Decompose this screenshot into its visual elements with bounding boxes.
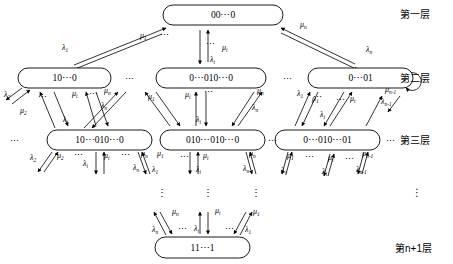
edge-label-e4: λi xyxy=(209,55,215,65)
node-n-10-010-0[interactable]: 10⋯010⋯0 xyxy=(47,130,152,150)
edge-label-e26: λi xyxy=(82,159,88,169)
ellipsis-h3: ⋯ xyxy=(10,136,20,146)
edge-label-e47: λ1 xyxy=(244,225,251,235)
node-n-0-010-01[interactable]: 0⋯010⋯01 xyxy=(275,130,380,150)
edge-label-e2: μ1 xyxy=(139,31,147,41)
edge-label-e35: λn xyxy=(242,164,249,174)
edge-label-e22: λn-1 xyxy=(380,97,392,107)
ellipsis-h18: ⋯ xyxy=(178,224,188,234)
vertical-ellipsis-v3: ⋮ xyxy=(251,187,261,198)
edge-label-e46: μ1 xyxy=(252,207,260,217)
edge-label-e36: μ1 xyxy=(286,151,294,161)
edge-label-e29: λn xyxy=(132,163,139,173)
ellipsis-h14: ⋯ xyxy=(121,150,131,160)
edge-label-e20: μi xyxy=(349,94,356,104)
edge-label-e10: μn xyxy=(103,86,111,96)
edge-label-e33: λi xyxy=(195,165,201,175)
edge-label-e27: μi xyxy=(103,151,110,161)
edge-label-e11: λn xyxy=(100,101,107,111)
layer-label-group: 第一层第二层第三层⋮第n+1层 xyxy=(395,8,432,254)
node-label: 010⋯010⋯0 xyxy=(186,135,240,145)
edge-label-e45: λi xyxy=(193,224,199,234)
layer-label-layer-2: 第二层 xyxy=(400,72,430,84)
vertical-ellipsis-v2: ⋮ xyxy=(203,187,213,198)
edge-label-e31: λ1 xyxy=(151,165,158,175)
edge-label-e16: λn xyxy=(251,103,258,113)
node-n-0-010-0[interactable]: 0⋯010⋯0 xyxy=(156,68,266,88)
node-n-010-010-0[interactable]: 010⋯010⋯0 xyxy=(160,130,265,150)
node-n-0-01[interactable]: 0⋯01 xyxy=(308,68,413,88)
edge-label-e8: μ2 xyxy=(19,106,27,116)
edge-label-e14: μi xyxy=(184,90,191,100)
edge-label-e30: μ1 xyxy=(156,149,164,159)
edge-label-e44: μi xyxy=(214,206,221,216)
node-label: 10⋯0 xyxy=(52,73,77,83)
ellipsis-h19: ⋯ xyxy=(225,224,235,234)
edge-label-e41: λn-1 xyxy=(355,165,367,175)
node-label: 10⋯010⋯0 xyxy=(75,135,124,145)
edge-label-e28: μn xyxy=(140,149,148,159)
node-label: 0⋯010⋯0 xyxy=(189,73,233,83)
edge-label-e15: μn xyxy=(256,86,264,96)
ellipsis-h11: ⋯ xyxy=(313,92,323,102)
edge-label-e21: λi xyxy=(319,110,325,120)
ellipsis-h7: ⋯ xyxy=(160,30,170,40)
ellipsis-h13: ⋯ xyxy=(74,150,84,160)
node-n-10-0[interactable]: 10⋯0 xyxy=(18,68,111,88)
node-label: 11⋯1 xyxy=(191,243,215,253)
layer-label-layer-1: 第一层 xyxy=(400,8,430,20)
node-label: 0⋯010⋯01 xyxy=(303,135,352,145)
state-transition-diagram: 00⋯010⋯00⋯010⋯00⋯0110⋯010⋯0010⋯010⋯00⋯01… xyxy=(0,0,453,264)
edge-label-e13: μ1 xyxy=(147,92,155,102)
ellipsis-h16: ⋯ xyxy=(305,152,315,162)
edge-label-e9: μi xyxy=(71,89,78,99)
layer-label-layer-n1: 第n+1层 xyxy=(395,242,432,254)
edge-label-e5: μn xyxy=(299,20,307,30)
ellipsis-h4: ⋯ xyxy=(268,136,278,146)
edge-label-e34: μn xyxy=(248,149,256,159)
ellipsis-h17: ⋯ xyxy=(345,154,355,164)
edge-label-e1: λ1 xyxy=(61,43,68,53)
vertical-ellipsis-group: ⋮⋮⋮ xyxy=(157,187,261,198)
edge-label-e3: μi xyxy=(221,43,228,53)
edge-label-e18: λ1 xyxy=(296,89,303,99)
ellipsis-h2: ⋯ xyxy=(283,74,293,84)
layer-label-layer-dots: ⋮ xyxy=(412,187,422,198)
ellipsis-h6: ⋯ xyxy=(38,92,48,102)
edge-label-e37: λ1 xyxy=(280,166,287,176)
edge-label-e24: λ2 xyxy=(29,153,36,163)
edge-label-e12: λi xyxy=(62,115,68,125)
ellipsis-h8: ⋯ xyxy=(206,39,216,49)
ellipsis-h1: ⋯ xyxy=(125,74,135,84)
ellipsis-h9: ⋯ xyxy=(89,89,99,99)
ellipsis-h10: ⋯ xyxy=(204,87,214,97)
edge-label-e17: λi xyxy=(195,115,201,125)
ellipsis-h15: ⋯ xyxy=(180,152,190,162)
edge-label-e39: λi xyxy=(321,167,327,177)
edge-label-e38: μi xyxy=(327,153,334,163)
node-label: 00⋯0 xyxy=(211,10,236,20)
ellipsis-h12: ⋯ xyxy=(336,95,346,105)
edge-label-e6: λn xyxy=(365,45,372,55)
vertical-ellipsis-v1: ⋮ xyxy=(157,187,167,198)
edge-label-e32: μi xyxy=(202,151,209,161)
edge-label-e25: μ2 xyxy=(56,151,64,161)
node-n-11-1[interactable]: 11⋯1 xyxy=(155,237,250,258)
edge-label-e7: λ2 xyxy=(3,90,10,100)
edge-label-e43: λn xyxy=(151,225,158,235)
edge-label-e42: μn xyxy=(171,207,179,217)
node-label: 0⋯01 xyxy=(348,73,373,83)
node-n-00-0[interactable]: 00⋯0 xyxy=(163,5,283,25)
edge-label-e40: μn-1 xyxy=(361,149,374,159)
layer-label-layer-3: 第三层 xyxy=(400,134,430,146)
ellipsis-h5: ⋯ xyxy=(386,136,396,146)
